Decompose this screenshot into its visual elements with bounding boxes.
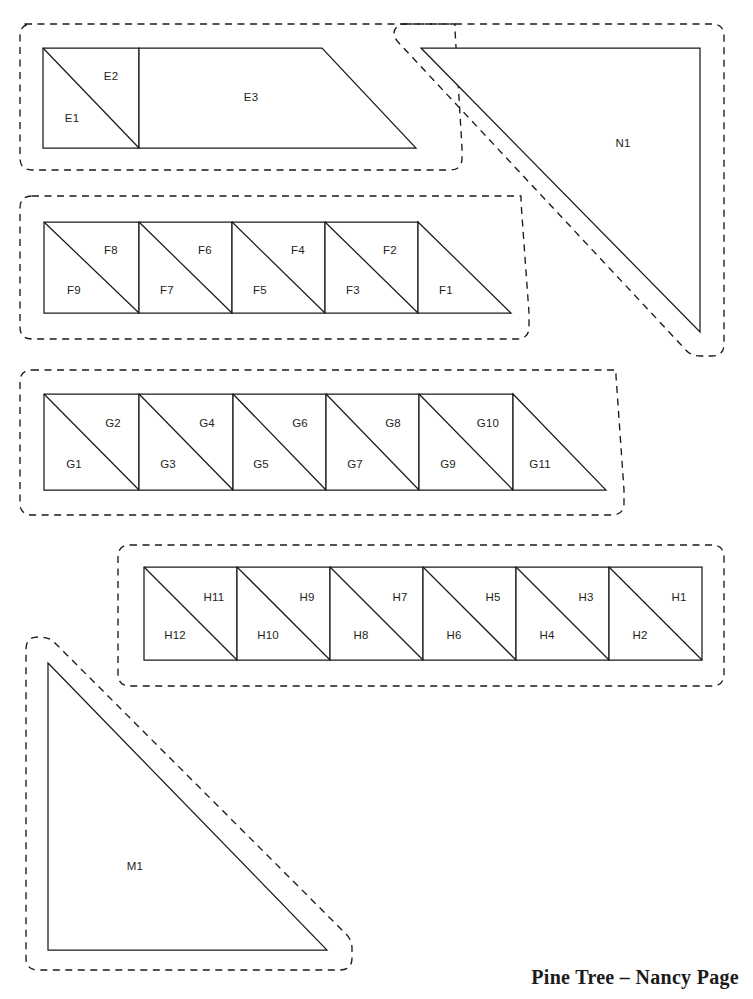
piece-label-g3: G3 bbox=[160, 458, 176, 470]
group-h bbox=[118, 545, 724, 686]
piece-label-g1: G1 bbox=[66, 458, 82, 470]
piece-label-h10: H10 bbox=[257, 629, 279, 641]
piece-label-m1: M1 bbox=[127, 860, 143, 872]
piece-label-h3: H3 bbox=[578, 591, 593, 603]
piece-label-h11: H11 bbox=[204, 591, 225, 603]
piece-label-g10: G10 bbox=[477, 417, 499, 429]
group-m bbox=[26, 637, 352, 970]
piece-label-g11: G11 bbox=[529, 458, 550, 470]
piece-label-f1: F1 bbox=[439, 284, 453, 296]
piece-label-g4: G4 bbox=[199, 417, 215, 429]
piece-label-h8: H8 bbox=[353, 629, 368, 641]
piece-label-f7: F7 bbox=[160, 284, 174, 296]
piece-label-f5: F5 bbox=[253, 284, 267, 296]
piece-label-f8: F8 bbox=[104, 244, 118, 256]
piece-label-f2: F2 bbox=[383, 244, 397, 256]
piece-g11-triangle bbox=[513, 394, 606, 490]
piece-label-g8: G8 bbox=[385, 417, 401, 429]
piece-label-f6: F6 bbox=[198, 244, 212, 256]
piece-label-g6: G6 bbox=[292, 417, 308, 429]
group-e bbox=[20, 24, 462, 170]
piece-label-f3: F3 bbox=[346, 284, 360, 296]
piece-label-f4: F4 bbox=[291, 244, 305, 256]
piece-label-e1: E1 bbox=[65, 112, 79, 124]
piece-label-g9: G9 bbox=[440, 458, 456, 470]
piece-label-g5: G5 bbox=[253, 458, 269, 470]
piece-label-g2: G2 bbox=[105, 417, 121, 429]
piece-label-e3: E3 bbox=[244, 91, 258, 103]
piece-m1 bbox=[48, 663, 327, 950]
pattern-credit: Pine Tree – Nancy Page bbox=[531, 966, 739, 989]
group-g bbox=[20, 370, 624, 515]
piece-label-h1: H1 bbox=[671, 591, 686, 603]
piece-label-h6: H6 bbox=[446, 629, 461, 641]
piece-label-f9: F9 bbox=[67, 284, 81, 296]
piece-label-g7: G7 bbox=[347, 458, 363, 470]
piece-label-h7: H7 bbox=[392, 591, 407, 603]
group-f bbox=[20, 196, 529, 339]
piece-f1-triangle bbox=[418, 222, 511, 313]
piece-label-h2: H2 bbox=[632, 629, 647, 641]
piece-label-h5: H5 bbox=[485, 591, 500, 603]
pattern-sheet: E1 E2 E3 N1 F9 F8 F7 F6 F5 F4 F3 F2 F1 G… bbox=[0, 0, 753, 999]
piece-label-h12: H12 bbox=[164, 629, 186, 641]
piece-label-h9: H9 bbox=[299, 591, 314, 603]
piece-label-h4: H4 bbox=[539, 629, 554, 641]
piece-label-e2: E2 bbox=[104, 70, 118, 82]
piece-label-n1: N1 bbox=[615, 137, 630, 149]
pattern-drawing bbox=[0, 0, 753, 999]
piece-e3 bbox=[139, 48, 416, 148]
